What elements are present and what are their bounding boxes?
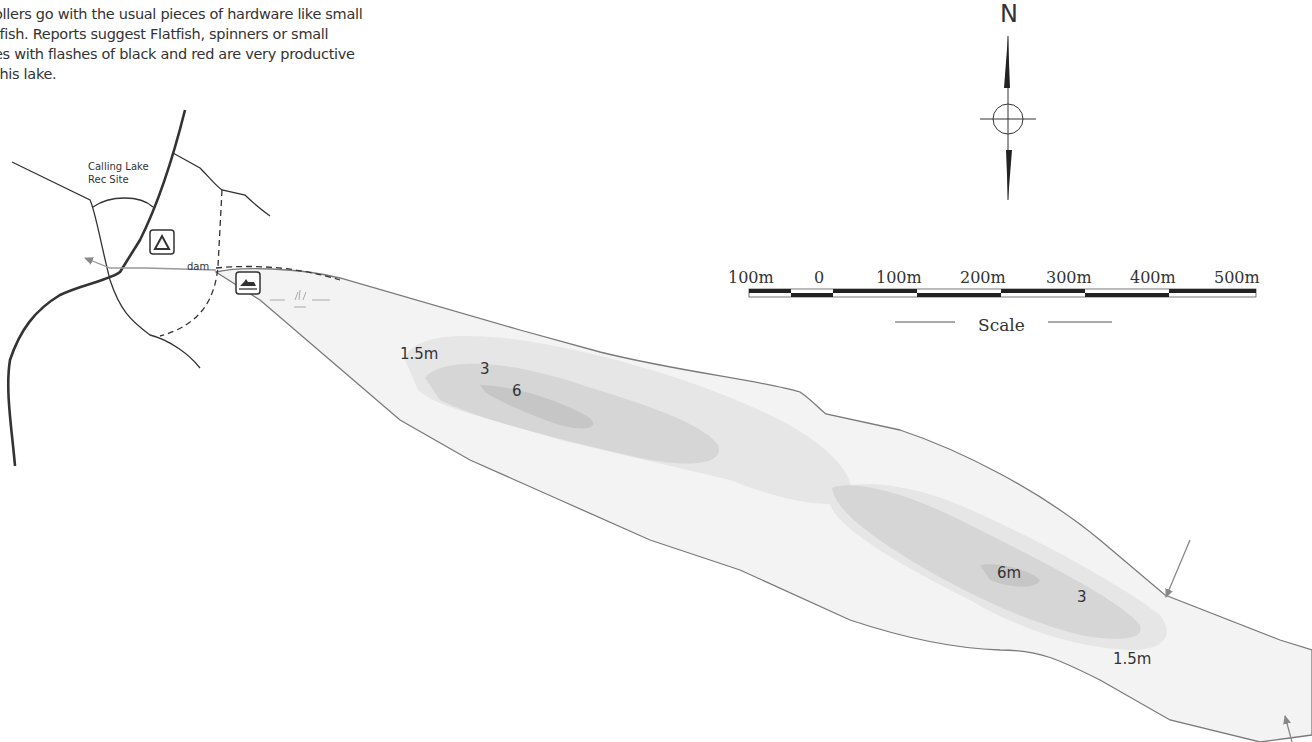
svg-text:300m: 300m xyxy=(1046,268,1092,287)
depth-label: 1.5m xyxy=(400,345,438,363)
depth-label: 1.5m xyxy=(1113,650,1151,668)
campground-icon xyxy=(150,230,174,254)
inflow-arrow-icon xyxy=(1166,540,1190,597)
svg-text:200m: 200m xyxy=(960,268,1006,287)
depth-label: 6m xyxy=(997,564,1021,582)
north-label: N xyxy=(1000,0,1018,28)
svg-text:500m: 500m xyxy=(1214,268,1260,287)
scale-bar: 100m 0 100m 200m 300m 400m 500m Scale xyxy=(728,268,1260,335)
lake-map: Calling Lake Rec Site dam 1.5m 3 6 6m 3 … xyxy=(0,0,1312,742)
svg-text:0: 0 xyxy=(814,268,824,287)
boat-launch-icon xyxy=(236,272,260,294)
depth-label: 3 xyxy=(1077,588,1087,606)
scale-title: Scale xyxy=(978,315,1025,335)
svg-text:400m: 400m xyxy=(1130,268,1176,287)
depth-label: 3 xyxy=(480,360,490,378)
depth-label: 6 xyxy=(512,382,522,400)
rec-site-label: Rec Site xyxy=(88,174,129,185)
north-arrow-icon: N xyxy=(980,0,1036,200)
svg-text:100m: 100m xyxy=(876,268,922,287)
rec-site-label: Calling Lake xyxy=(88,161,149,172)
dam-label: dam xyxy=(187,261,209,272)
lake-body xyxy=(216,269,1312,742)
svg-text:100m: 100m xyxy=(728,268,774,287)
